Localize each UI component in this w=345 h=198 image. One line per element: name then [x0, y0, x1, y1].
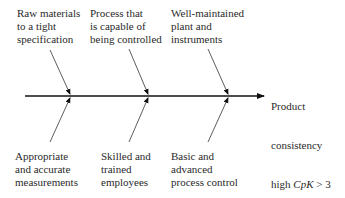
branch-arrow-employees — [129, 98, 148, 142]
effect-line-1: Product — [271, 100, 331, 113]
branch-arrow-process-control — [208, 98, 228, 142]
effect-label: Product consistency high CpK > 3 — [271, 74, 331, 198]
branch-arrow-process-capable — [129, 49, 148, 94]
branch-arrow-raw-materials — [50, 50, 70, 94]
effect-line-2: consistency — [271, 139, 331, 152]
cause-measurements: Appropriate and accurate measurements — [15, 150, 78, 189]
cause-raw-materials: Raw materials to a tight specification — [17, 7, 80, 46]
branch-arrow-plant — [208, 49, 228, 94]
branch-arrow-measurements — [50, 98, 70, 142]
effect-line-3: high CpK > 3 — [271, 178, 331, 191]
cause-process-control: Basic and advanced process control — [171, 150, 238, 189]
cpk-metric: CpK — [293, 178, 313, 190]
effect-condition: > 3 — [314, 178, 331, 190]
effect-prefix: high — [271, 178, 293, 190]
cause-plant-instruments: Well-maintained plant and instruments — [171, 7, 244, 46]
cause-process-capable: Process that is capable of being control… — [90, 7, 162, 46]
cause-employees: Skilled and trained employees — [101, 150, 151, 189]
